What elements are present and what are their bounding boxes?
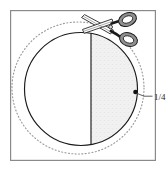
diagram-canvas: 1/4 — [0, 0, 168, 170]
scissors-pivot-icon — [109, 25, 113, 29]
figure-root: 1/4 — [0, 0, 168, 170]
fraction-label: 1/4 — [154, 92, 166, 102]
